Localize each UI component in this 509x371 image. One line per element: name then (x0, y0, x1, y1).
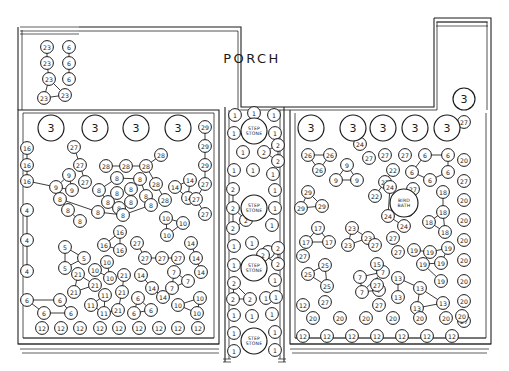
plant-marker-23[interactable]: 23 (38, 92, 51, 105)
specimen-tree-3[interactable]: 3 (123, 115, 149, 141)
plant-marker-27[interactable]: 27 (392, 246, 405, 259)
plant-marker-27[interactable]: 27 (172, 252, 185, 265)
plant-marker-8[interactable]: 8 (117, 209, 130, 222)
plant-marker-18[interactable]: 18 (437, 186, 450, 199)
plant-marker-1[interactable]: 1 (246, 237, 259, 250)
plant-marker-27[interactable]: 27 (79, 176, 92, 189)
plant-marker-20[interactable]: 20 (307, 312, 320, 325)
specimen-tree-3[interactable]: 3 (38, 115, 64, 141)
plant-marker-19[interactable]: 19 (417, 258, 430, 271)
plant-marker-1[interactable]: 1 (269, 274, 282, 287)
plant-marker-1[interactable]: 1 (269, 344, 282, 357)
plant-marker-6[interactable]: 6 (63, 57, 76, 70)
plant-marker-6[interactable]: 6 (63, 41, 76, 54)
plant-marker-8[interactable]: 8 (54, 193, 67, 206)
plant-marker-26[interactable]: 26 (324, 149, 337, 162)
plant-marker-2[interactable]: 2 (272, 258, 285, 271)
plant-marker-20[interactable]: 20 (458, 295, 471, 308)
plant-marker-5[interactable]: 5 (78, 252, 91, 265)
plant-marker-12[interactable]: 12 (172, 322, 185, 335)
plant-marker-14[interactable]: 14 (185, 237, 198, 250)
plant-marker-1[interactable]: 1 (269, 202, 282, 215)
plant-marker-13[interactable]: 13 (437, 297, 450, 310)
plant-marker-17[interactable]: 17 (312, 222, 325, 235)
plant-marker-12[interactable]: 12 (113, 322, 126, 335)
plant-marker-27[interactable]: 27 (387, 232, 400, 245)
plant-marker-7[interactable]: 7 (354, 271, 367, 284)
plant-marker-1[interactable]: 1 (269, 184, 282, 197)
plant-marker-1[interactable]: 1 (269, 127, 282, 140)
plant-marker-25[interactable]: 25 (302, 268, 315, 281)
plant-marker-12[interactable]: 12 (446, 330, 459, 343)
plant-marker-20[interactable]: 20 (360, 312, 373, 325)
plant-marker-6[interactable]: 6 (145, 304, 158, 317)
plant-marker-21[interactable]: 21 (116, 286, 129, 299)
plant-marker-20[interactable]: 20 (458, 214, 471, 227)
plant-marker-24[interactable]: 24 (398, 220, 411, 233)
plant-marker-13[interactable]: 13 (392, 291, 405, 304)
plant-marker-10[interactable]: 10 (172, 299, 185, 312)
plant-marker-2[interactable]: 2 (244, 293, 257, 306)
plant-marker-6[interactable]: 6 (54, 294, 67, 307)
plant-marker-17[interactable]: 17 (300, 236, 313, 249)
plant-marker-11[interactable]: 11 (98, 307, 111, 320)
plant-marker-13[interactable]: 13 (414, 282, 427, 295)
plant-marker-6[interactable]: 6 (419, 149, 432, 162)
plant-marker-6[interactable]: 6 (38, 307, 51, 320)
plant-marker-12[interactable]: 12 (346, 330, 359, 343)
plant-marker-21[interactable]: 21 (89, 279, 102, 292)
plant-marker-2[interactable]: 2 (258, 146, 271, 159)
plant-marker-23[interactable]: 23 (43, 73, 56, 86)
plant-marker-9[interactable]: 9 (341, 159, 354, 172)
plant-marker-12[interactable]: 12 (421, 330, 434, 343)
plant-marker-27[interactable]: 27 (199, 208, 212, 221)
step-stone-marker[interactable]: STEPSTONE (241, 195, 267, 221)
plant-marker-12[interactable]: 12 (321, 330, 334, 343)
plant-marker-4[interactable]: 4 (21, 234, 34, 247)
plant-marker-1[interactable]: 1 (266, 219, 279, 232)
plant-marker-20[interactable]: 20 (414, 312, 427, 325)
plant-marker-27[interactable]: 27 (369, 239, 382, 252)
plant-marker-19[interactable]: 19 (435, 275, 448, 288)
plant-marker-14[interactable]: 14 (184, 174, 197, 187)
plant-marker-27[interactable]: 27 (399, 149, 412, 162)
plant-marker-12[interactable]: 12 (94, 322, 107, 335)
plant-marker-10[interactable]: 10 (161, 229, 174, 242)
plant-marker-4[interactable]: 4 (21, 265, 34, 278)
plant-marker-1[interactable]: 1 (266, 308, 279, 321)
plant-marker-1[interactable]: 1 (228, 345, 241, 358)
plant-marker-18[interactable]: 18 (439, 226, 452, 239)
plant-marker-2[interactable]: 2 (272, 139, 285, 152)
plant-marker-18[interactable]: 18 (423, 216, 436, 229)
plant-marker-8[interactable]: 8 (111, 172, 124, 185)
plant-marker-1[interactable]: 1 (270, 291, 283, 304)
plant-marker-25[interactable]: 25 (319, 259, 332, 272)
plant-marker-9[interactable]: 9 (63, 169, 76, 182)
plant-marker-12[interactable]: 12 (297, 299, 310, 312)
specimen-tree-3[interactable]: 3 (370, 115, 396, 141)
plant-marker-6[interactable]: 6 (132, 292, 145, 305)
plant-marker-20[interactable]: 20 (387, 312, 400, 325)
plant-marker-14[interactable]: 14 (169, 181, 182, 194)
plant-marker-26[interactable]: 26 (313, 164, 326, 177)
plant-marker-20[interactable]: 20 (458, 194, 471, 207)
plant-marker-1[interactable]: 1 (228, 127, 241, 140)
plant-marker-6[interactable]: 6 (406, 166, 419, 179)
specimen-tree-3[interactable]: 3 (402, 115, 428, 141)
plant-marker-19[interactable]: 19 (442, 242, 455, 255)
plant-marker-6[interactable]: 6 (128, 307, 141, 320)
plant-marker-22[interactable]: 22 (369, 190, 382, 203)
plant-marker-28[interactable]: 28 (155, 149, 168, 162)
plant-marker-20[interactable]: 20 (458, 275, 471, 288)
plant-marker-20[interactable]: 20 (458, 234, 471, 247)
plant-marker-28[interactable]: 28 (100, 160, 113, 173)
plant-marker-23[interactable]: 23 (41, 41, 54, 54)
plant-marker-20[interactable]: 20 (334, 312, 347, 325)
plant-marker-10[interactable]: 10 (89, 264, 102, 277)
plant-marker-14[interactable]: 14 (135, 269, 148, 282)
plant-marker-1[interactable]: 1 (228, 164, 241, 177)
plant-marker-21[interactable]: 21 (72, 268, 85, 281)
plant-marker-26[interactable]: 26 (302, 149, 315, 162)
plant-marker-27[interactable]: 27 (68, 141, 81, 154)
plant-marker-1[interactable]: 1 (268, 109, 281, 122)
